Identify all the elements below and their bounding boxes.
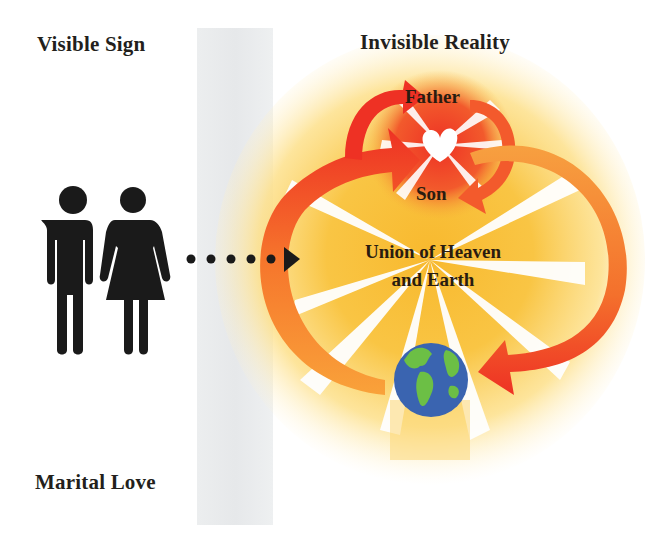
man-and-woman-icon bbox=[41, 186, 170, 355]
marital-love-label: Marital Love bbox=[35, 470, 156, 495]
father-label: Father bbox=[405, 86, 460, 108]
diagram-canvas: Visible Sign Invisible Reality Marital L… bbox=[0, 0, 650, 544]
union-label-line2: and Earth bbox=[348, 266, 518, 294]
union-label: Union of Heaven and Earth bbox=[348, 238, 518, 294]
diagram-artwork bbox=[0, 0, 650, 544]
invisible-reality-heading: Invisible Reality bbox=[360, 30, 510, 55]
union-label-line1: Union of Heaven bbox=[348, 238, 518, 266]
son-label: Son bbox=[416, 183, 447, 205]
visible-sign-heading: Visible Sign bbox=[37, 32, 145, 57]
earth-globe-icon bbox=[394, 343, 468, 417]
